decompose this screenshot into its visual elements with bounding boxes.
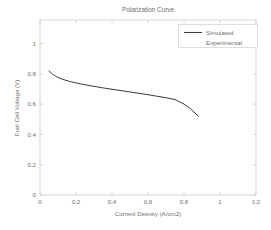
- legend-label-experimental: Experimental: [206, 39, 242, 46]
- x-tick-label: 0.8: [180, 198, 189, 205]
- x-tick-label: 0.6: [144, 198, 153, 205]
- y-tick-label: 0: [33, 191, 37, 198]
- chart-figure: 00.20.40.60.811.200.20.40.60.81 Simulate…: [0, 0, 271, 230]
- y-tick-label: 1: [33, 40, 37, 47]
- x-axis-title: Current Desnity (A/cm2): [115, 210, 181, 217]
- y-tick-label: 0.6: [27, 100, 36, 107]
- x-tick-label: 1: [218, 198, 222, 205]
- series-line-simulated: [49, 71, 198, 116]
- chart-legend: Simulated Experimental: [179, 25, 258, 48]
- y-tick-label: 0.2: [27, 161, 36, 168]
- data-series-group: [49, 71, 198, 116]
- polarization-curve-chart: 00.20.40.60.811.200.20.40.60.81 Simulate…: [0, 0, 271, 230]
- y-tick-label: 0.4: [27, 131, 36, 138]
- axis-tick-labels: 00.20.40.60.811.200.20.40.60.81: [27, 40, 260, 205]
- legend-label-simulated: Simulated: [206, 29, 234, 36]
- x-tick-label: 0.4: [108, 198, 117, 205]
- x-tick-label: 0: [38, 198, 42, 205]
- y-tick-label: 0.8: [27, 70, 36, 77]
- x-tick-label: 1.2: [252, 198, 261, 205]
- y-axis-title: Fuel Cell Voltage (V): [13, 80, 20, 137]
- x-tick-label: 0.2: [72, 198, 81, 205]
- chart-title: Polarization Curve: [122, 6, 175, 13]
